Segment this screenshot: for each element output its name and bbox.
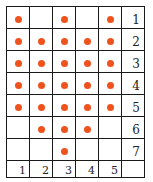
column-label-cell: 4 [76, 161, 99, 178]
grid-cell [99, 73, 122, 95]
grid-cell [30, 51, 53, 73]
grid-cell [7, 95, 30, 117]
grid-cell [76, 51, 99, 73]
grid-cell [30, 139, 53, 161]
dot-icon [107, 82, 114, 89]
grid-cell [99, 51, 122, 73]
dot-icon [84, 104, 91, 111]
row-label-cell: 4 [122, 73, 145, 95]
row-label: 3 [132, 57, 140, 71]
row-label: 4 [132, 79, 140, 93]
grid-cell [76, 139, 99, 161]
grid-row: 4 [7, 73, 145, 95]
grid-cell [99, 7, 122, 29]
dot-icon [61, 38, 68, 45]
grid-cell [76, 29, 99, 51]
dot-icon [61, 104, 68, 111]
column-label: 5 [111, 164, 118, 177]
grid-cell [53, 7, 76, 29]
grid-cell [53, 117, 76, 139]
dot-icon [84, 38, 91, 45]
row-label: 5 [132, 101, 140, 115]
grid-cell [53, 73, 76, 95]
row-label-cell: 1 [122, 7, 145, 29]
row-label-cell: 7 [122, 139, 145, 161]
dot-icon [84, 60, 91, 67]
row-label: 7 [132, 145, 140, 159]
grid-cell [30, 95, 53, 117]
grid-row: 6 [7, 117, 145, 139]
column-label-row: 12345 [7, 161, 145, 178]
column-label: 4 [88, 164, 95, 177]
dot-icon [84, 82, 91, 89]
grid-cell [99, 139, 122, 161]
dot-icon [61, 126, 68, 133]
grid-row: 1 [7, 7, 145, 29]
column-label-cell: 5 [99, 161, 122, 178]
dot-icon [61, 16, 68, 23]
dot-icon [15, 38, 22, 45]
grid-cell [99, 117, 122, 139]
grid-row: 2 [7, 29, 145, 51]
dot-icon [84, 126, 91, 133]
row-label-cell: 6 [122, 117, 145, 139]
grid-cell [99, 95, 122, 117]
dot-icon [15, 82, 22, 89]
grid-cell [7, 7, 30, 29]
row-label-cell: 2 [122, 29, 145, 51]
dot-icon [107, 60, 114, 67]
dot-icon [107, 16, 114, 23]
dot-icon [107, 104, 114, 111]
dot-icon [61, 60, 68, 67]
grid-cell [76, 73, 99, 95]
grid-cell [53, 29, 76, 51]
column-label-cell: 2 [30, 161, 53, 178]
grid-cell [76, 95, 99, 117]
dot-icon [15, 104, 22, 111]
grid-cell [53, 139, 76, 161]
dot-icon [107, 38, 114, 45]
column-label: 3 [65, 164, 72, 177]
column-label: 1 [19, 164, 26, 177]
column-label-cell: 1 [7, 161, 30, 178]
dot-icon [15, 60, 22, 67]
dot-icon [61, 82, 68, 89]
row-label-cell: 5 [122, 95, 145, 117]
grid-cell [7, 51, 30, 73]
grid-cell [76, 117, 99, 139]
dot-grid: 123456712345 [6, 6, 145, 178]
grid-cell [30, 7, 53, 29]
dot-icon [38, 126, 45, 133]
grid-cell [7, 117, 30, 139]
row-label: 2 [132, 35, 140, 49]
column-label: 2 [42, 164, 49, 177]
dot-icon [15, 16, 22, 23]
grid-cell [53, 51, 76, 73]
grid-cell [30, 117, 53, 139]
grid-cell [30, 29, 53, 51]
grid-cell [99, 29, 122, 51]
grid-row: 5 [7, 95, 145, 117]
dot-icon [61, 148, 68, 155]
grid-row: 3 [7, 51, 145, 73]
grid-cell [7, 29, 30, 51]
grid-cell [7, 73, 30, 95]
dot-icon [38, 82, 45, 89]
row-label: 1 [132, 13, 140, 27]
dot-icon [38, 104, 45, 111]
grid-cell [30, 73, 53, 95]
dot-icon [38, 60, 45, 67]
grid-cell [76, 7, 99, 29]
dot-icon [38, 38, 45, 45]
grid-row: 7 [7, 139, 145, 161]
column-label-cell: 3 [53, 161, 76, 178]
row-label-cell: 3 [122, 51, 145, 73]
row-label: 6 [132, 123, 140, 137]
grid-cell [7, 139, 30, 161]
grid-cell [53, 95, 76, 117]
corner-cell [122, 161, 145, 178]
